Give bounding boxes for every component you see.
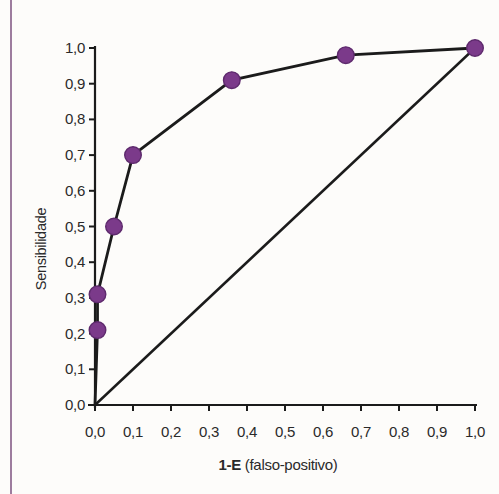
y-tick-label: 0,1	[65, 360, 85, 377]
x-axis-title: 1-E (falso-positivo)	[218, 456, 337, 473]
y-tick-label: 0,6	[65, 182, 85, 199]
reference-diagonal-line	[95, 48, 475, 405]
x-tick-label: 0,1	[123, 423, 143, 440]
y-tick-label: 0,4	[65, 253, 85, 270]
x-tick-label: 0,4	[237, 423, 257, 440]
y-tick-label: 0,5	[65, 218, 85, 235]
y-tick-label: 0,0	[65, 396, 85, 413]
x-tick-label: 0,8	[389, 423, 409, 440]
x-tick-label: 1,0	[465, 423, 485, 440]
x-tick-label: 0,5	[275, 423, 295, 440]
roc-curve-plot: 0,00,00,10,10,20,20,30,30,40,40,50,50,60…	[0, 0, 499, 494]
x-tick-label: 0,7	[351, 423, 371, 440]
roc-figure: 0,00,00,10,10,20,20,30,30,40,40,50,50,60…	[0, 0, 499, 494]
y-tick-label: 0,3	[65, 289, 85, 306]
roc-data-point	[467, 40, 484, 57]
y-tick-label: 0,9	[65, 75, 85, 92]
x-tick-label: 0,0	[85, 423, 105, 440]
roc-data-point	[89, 286, 106, 303]
roc-data-point	[125, 147, 142, 164]
y-axis-title: Sensibilidade	[33, 208, 49, 290]
y-tick-label: 1,0	[65, 39, 85, 56]
x-tick-label: 0,3	[199, 423, 219, 440]
x-tick-label: 0,2	[161, 423, 181, 440]
x-axis-title-rest: (falso-positivo)	[241, 456, 338, 473]
roc-data-point	[106, 218, 123, 235]
y-tick-label: 0,7	[65, 146, 85, 163]
x-axis-title-bold: 1-E	[218, 456, 240, 473]
y-tick-label: 0,8	[65, 110, 85, 127]
roc-data-point	[89, 322, 106, 339]
roc-data-point	[224, 72, 241, 89]
x-tick-label: 0,6	[313, 423, 333, 440]
x-tick-label: 0,9	[427, 423, 447, 440]
y-tick-label: 0,2	[65, 325, 85, 342]
roc-data-point	[338, 47, 355, 64]
